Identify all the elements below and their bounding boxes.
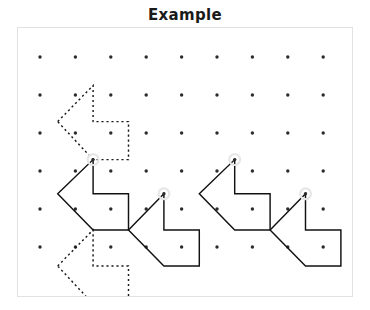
grid-dot [145,131,148,134]
grid-dot [109,55,112,58]
grid-dot [180,131,183,134]
grid-dot [109,207,112,210]
grid-dot [109,169,112,172]
grid-dot [38,55,41,58]
grid-dot [180,169,183,172]
grid-dot [38,131,41,134]
dot-grid-canvas [17,27,353,297]
grid-dot [251,207,254,210]
grid-dot [322,207,325,210]
grid-dot [145,169,148,172]
solid-arrow-four [270,194,341,266]
grid-dot [286,131,289,134]
grid-dot [180,55,183,58]
grid-dot [74,169,77,172]
shape-layer [58,86,341,297]
grid-dot [180,245,183,248]
dashed-arrow-bottom-left [58,230,129,296]
highlight-layer [88,154,311,199]
grid-dot [145,55,148,58]
highlight-vertex-b-dot [162,192,165,195]
grid-dot [286,93,289,96]
grid-dot [251,55,254,58]
figure-svg [18,28,352,296]
highlight-vertex-a-dot [91,158,94,161]
grid-dot [251,169,254,172]
grid-dot [74,93,77,96]
grid-dot [38,169,41,172]
grid-dot [286,55,289,58]
grid-dot [145,93,148,96]
grid-dot-layer [38,55,325,248]
grid-dot [322,55,325,58]
grid-dot [286,169,289,172]
dashed-arrow-top-left [58,86,129,160]
solid-arrow-one [58,160,129,230]
grid-dot [322,169,325,172]
grid-dot [38,245,41,248]
grid-dot [109,93,112,96]
grid-dot [215,55,218,58]
grid-dot [322,93,325,96]
grid-dot [38,207,41,210]
page-title: Example [0,6,370,24]
grid-dot [215,169,218,172]
solid-arrow-two [129,194,200,266]
grid-dot [251,93,254,96]
grid-dot [215,245,218,248]
grid-dot [251,131,254,134]
grid-dot [322,245,325,248]
grid-dot [38,93,41,96]
example-figure-panel: Example [0,0,370,310]
highlight-vertex-c-dot [233,158,236,161]
grid-dot [322,131,325,134]
grid-dot [109,131,112,134]
grid-dot [215,93,218,96]
grid-dot [74,55,77,58]
grid-dot [215,131,218,134]
grid-dot [74,131,77,134]
grid-dot [109,245,112,248]
grid-dot [180,93,183,96]
grid-dot [251,245,254,248]
grid-dot [180,207,183,210]
solid-arrow-three [199,160,270,230]
highlight-vertex-d-dot [304,192,307,195]
